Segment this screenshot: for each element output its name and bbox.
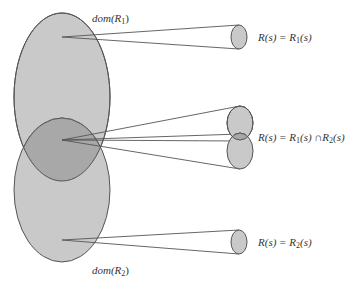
target-r1-ellipse bbox=[231, 25, 247, 49]
equation-intersection: R(s) = R1(s) ∩R2(s) bbox=[257, 131, 345, 145]
equation-r2: R(s) = R2(s) bbox=[257, 236, 312, 250]
label-dom-r1: dom(R1) bbox=[92, 12, 129, 26]
label-dom-r2: dom(R2) bbox=[92, 264, 129, 278]
equation-r1: R(s) = R1(s) bbox=[257, 31, 312, 45]
domain-mapping-diagram: dom(R1) dom(R2) R(s) = R1(s) R(s) = R1(s… bbox=[0, 0, 357, 286]
target-r2-ellipse bbox=[231, 230, 247, 254]
